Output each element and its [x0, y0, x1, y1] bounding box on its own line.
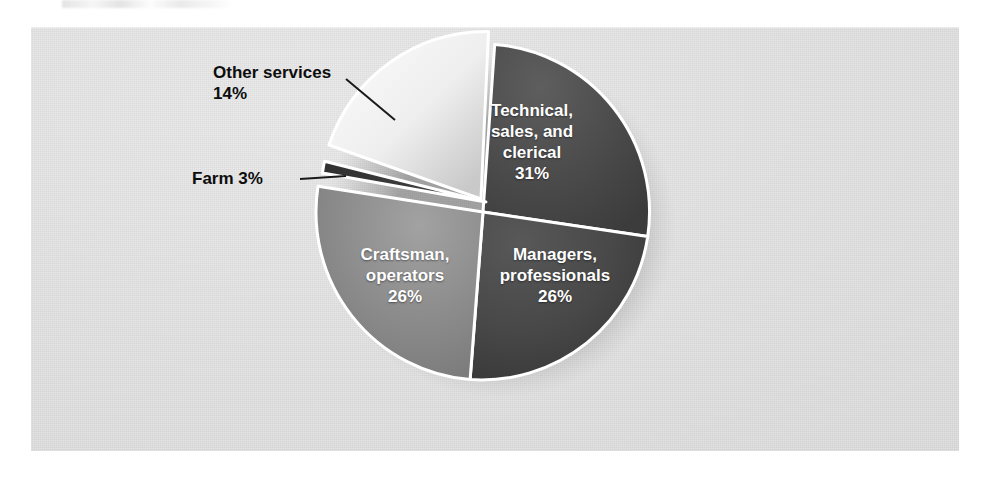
slice-label-other-services: Other services 14% [213, 62, 403, 104]
pie-chart-graphic [0, 0, 983, 479]
pie-slice-technical[interactable] [483, 44, 650, 236]
pie-slice-managers[interactable] [470, 212, 648, 380]
pie-slice-craftsman[interactable] [316, 186, 483, 379]
slice-label-farm: Farm 3% [192, 168, 322, 189]
figure-root: Technical, sales, and clerical 31% Manag… [0, 0, 983, 479]
